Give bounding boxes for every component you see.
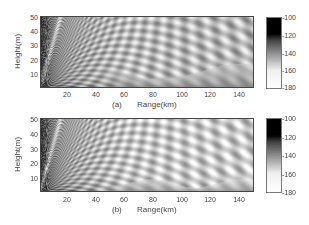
y-axis-label: Height(m) [13, 130, 22, 180]
colorbar-tick: -180 [282, 189, 302, 197]
x-tick: 40 [86, 196, 106, 204]
x-tick: 120 [200, 196, 220, 204]
y-tick: 30 [24, 146, 38, 154]
colorbar-tick: -100 [282, 115, 302, 123]
colorbar-b [266, 118, 282, 193]
y-tick: 40 [24, 131, 38, 139]
panel-b: Height(m) 50 40 30 20 10 20 40 60 80 100… [0, 0, 309, 225]
colorbar-tick: -120 [282, 134, 302, 142]
colorbar-gradient [267, 119, 281, 192]
colorbar-tick: -160 [282, 171, 302, 179]
x-tick: 100 [172, 196, 192, 204]
x-tick: 20 [57, 196, 77, 204]
y-tick: 50 [24, 116, 38, 124]
x-tick: 80 [143, 196, 163, 204]
heatmap-canvas-b [41, 119, 253, 191]
heatmap-plot-b [40, 118, 254, 192]
x-axis-label: Range(km) [137, 205, 177, 214]
panel-label-b: (b) [112, 205, 122, 214]
x-tick: 60 [114, 196, 134, 204]
y-tick: 20 [24, 160, 38, 168]
colorbar-tick: -140 [282, 152, 302, 160]
x-tick: 140 [229, 196, 249, 204]
y-tick: 10 [24, 175, 38, 183]
